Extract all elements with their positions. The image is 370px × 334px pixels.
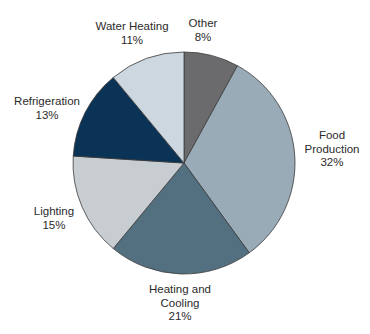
label-food-production-value: 32% — [305, 156, 360, 170]
label-other: Other 8% — [189, 17, 218, 44]
label-heating-and-cooling: Heating and Cooling 21% — [149, 283, 211, 324]
label-heating-cooling-name-1: Heating and — [149, 283, 211, 297]
label-lighting-value: 15% — [34, 219, 74, 233]
label-refrigeration-name: Refrigeration — [14, 95, 80, 109]
label-water-heating: Water Heating 11% — [95, 20, 168, 47]
label-other-name: Other — [189, 17, 218, 31]
label-food-production-name-2: Production — [305, 143, 360, 157]
pie-slices — [73, 52, 295, 274]
label-other-value: 8% — [189, 31, 218, 45]
label-water-heating-name: Water Heating — [95, 20, 168, 34]
label-heating-cooling-name-2: Cooling — [149, 297, 211, 311]
label-refrigeration-value: 13% — [14, 109, 80, 123]
label-water-heating-value: 11% — [95, 34, 168, 48]
label-refrigeration: Refrigeration 13% — [14, 95, 80, 122]
label-food-production-name-1: Food — [305, 129, 360, 143]
label-heating-cooling-value: 21% — [149, 310, 211, 324]
label-lighting: Lighting 15% — [34, 205, 74, 232]
label-food-production: Food Production 32% — [305, 129, 360, 170]
label-lighting-name: Lighting — [34, 205, 74, 219]
